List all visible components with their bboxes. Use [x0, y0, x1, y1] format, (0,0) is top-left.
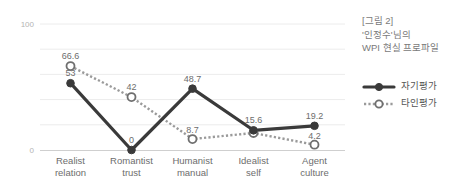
svg-text:culture: culture: [300, 167, 329, 178]
chart-title-line-1: [그림 2]: [362, 14, 468, 28]
chart-screenshot: 1000 66.6428.74.2 53048.715.619.2 Realis…: [0, 0, 468, 195]
chart-title-line-2: '인정수'님의: [362, 28, 468, 42]
y-axis-ticks: 1000: [21, 20, 35, 155]
chart-legend: 자기평가 타인평가: [362, 76, 468, 110]
legend-marker-dotted-hollow-circle-icon: [362, 96, 396, 108]
svg-text:0: 0: [129, 135, 134, 145]
legend-marker-solid-filled-circle-icon: [362, 79, 396, 91]
svg-text:Realist: Realist: [56, 155, 85, 166]
legend-label-self-eval: 자기평가: [401, 78, 437, 92]
svg-text:trust: trust: [122, 167, 141, 178]
svg-text:66.6: 66.6: [62, 51, 80, 61]
chart-plot-panel: 1000 66.6428.74.2 53048.715.619.2 Realis…: [0, 0, 352, 195]
chart-side-panel: [그림 2] '인정수'님의 WPI 현실 프로파일 자기평가: [358, 0, 468, 195]
svg-text:Romantist: Romantist: [110, 155, 153, 166]
legend-label-other-eval: 타인평가: [401, 95, 437, 109]
svg-text:Agent: Agent: [302, 155, 327, 166]
svg-text:42: 42: [126, 82, 136, 92]
chart-title-line-3: WPI 현실 프로파일: [362, 41, 468, 55]
legend-item-self-eval[interactable]: 자기평가: [362, 76, 468, 93]
svg-text:53: 53: [65, 68, 75, 78]
svg-text:15.6: 15.6: [245, 115, 263, 125]
legend-item-other-eval[interactable]: 타인평가: [362, 93, 468, 110]
svg-text:Humanist: Humanist: [172, 155, 212, 166]
svg-text:0: 0: [30, 146, 35, 155]
x-axis-category-labels: RealistrelationRomantisttrustHumanistman…: [55, 155, 329, 178]
svg-text:relation: relation: [55, 167, 86, 178]
svg-text:Idealist: Idealist: [238, 155, 268, 166]
svg-text:48.7: 48.7: [184, 74, 202, 84]
svg-text:manual: manual: [177, 167, 208, 178]
svg-text:19.2: 19.2: [306, 111, 324, 121]
svg-text:4.2: 4.2: [308, 131, 321, 141]
svg-text:self: self: [246, 167, 261, 178]
svg-text:8.7: 8.7: [186, 125, 199, 135]
svg-text:100: 100: [21, 20, 35, 29]
line-chart-svg: 1000 66.6428.74.2 53048.715.619.2 Realis…: [0, 0, 352, 195]
chart-title: [그림 2] '인정수'님의 WPI 현실 프로파일: [362, 14, 468, 55]
